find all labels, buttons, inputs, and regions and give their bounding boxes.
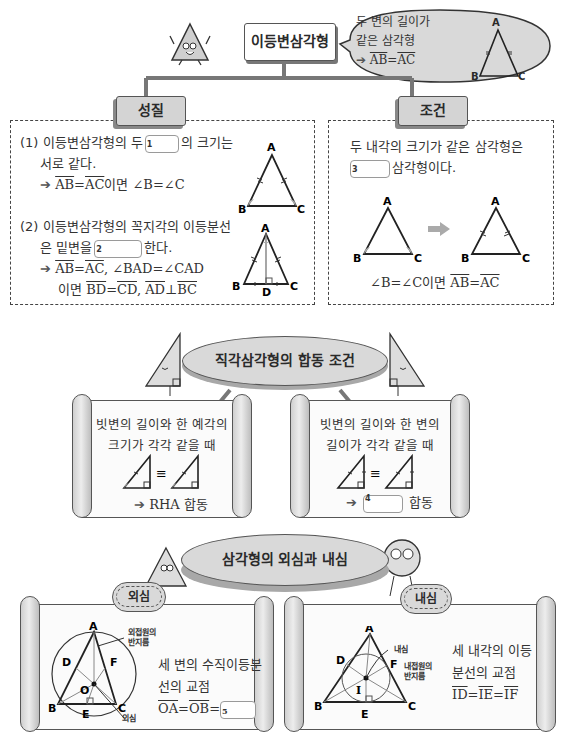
scroll-roll-left	[72, 394, 92, 518]
svg-text:A: A	[491, 196, 500, 208]
arrow-icon: ➔	[134, 497, 145, 512]
answer-blank-3[interactable]: 3	[350, 160, 390, 178]
svg-text:C: C	[290, 280, 298, 293]
right-arrow-icon	[428, 222, 452, 236]
svg-text:A: A	[267, 141, 276, 154]
svg-text:B: B	[314, 700, 322, 713]
arrow-icon: ➔	[346, 495, 357, 510]
definition-line1: 두 변의 길이가	[356, 13, 430, 32]
svg-text:A: A	[365, 626, 374, 635]
svg-text:B: B	[461, 252, 469, 264]
condition-triangle-sides: A B C	[458, 196, 548, 264]
svg-text:F: F	[110, 656, 118, 669]
svg-text:B: B	[48, 702, 56, 715]
svg-text:C: C	[522, 252, 530, 264]
connector-lines	[0, 60, 564, 120]
svg-text:B: B	[353, 252, 361, 264]
circumcenter-text: 세 변의 수직이등분 선의 교점 OA=OB=5	[158, 654, 262, 720]
answer-blank-4[interactable]: 4	[363, 495, 403, 513]
scroll-roll-right	[232, 394, 252, 518]
isosceles-title: 이등변삼각형	[244, 23, 336, 61]
svg-text:≡: ≡	[156, 466, 167, 481]
condition-formula: ∠B=∠C이면 AB=AC	[370, 272, 500, 291]
arrow-icon: ➔	[40, 261, 51, 276]
svg-text:F: F	[390, 658, 398, 671]
scroll-roll-left	[284, 596, 304, 732]
svg-text:A: A	[89, 620, 98, 633]
svg-text:O: O	[80, 684, 89, 697]
rhs-triangles-figure: ≡	[336, 454, 426, 492]
svg-text:C: C	[408, 700, 416, 713]
incenter-text: 세 내각의 이등 분선의 교점 ID=IE=IF	[452, 640, 532, 706]
answer-blank-1[interactable]: 1	[145, 135, 179, 153]
isosceles-triangle-figure-1: A B C	[238, 140, 308, 220]
properties-tab: 성질	[116, 96, 186, 126]
svg-text:C: C	[297, 203, 305, 216]
svg-text:D: D	[336, 654, 345, 667]
incenter-tab: 내심	[400, 584, 452, 614]
scroll-roll-right	[536, 596, 556, 732]
svg-text:C: C	[414, 252, 422, 264]
inradius-annotation: 내접원의 반지름	[404, 662, 432, 682]
svg-text:A: A	[261, 224, 270, 235]
svg-text:D: D	[62, 656, 71, 669]
svg-text:E: E	[82, 708, 90, 721]
rhs-result: ➔ 4 합동	[346, 492, 433, 513]
answer-blank-2[interactable]: 2	[94, 240, 142, 258]
arrow-icon: ➔	[40, 177, 51, 192]
svg-text:B: B	[232, 280, 240, 293]
condition-triangle-angles: A B C	[350, 196, 440, 264]
answer-blank-5[interactable]: 5	[220, 701, 256, 719]
condition-text: 두 내각의 크기가 같은 삼각형은 3삼각형이다.	[350, 136, 550, 178]
circumcenter-annotation: 외심	[122, 712, 136, 723]
definition-line2: 같은 삼각형	[356, 32, 430, 51]
svg-text:I: I	[356, 684, 361, 697]
incenter-annotation: 내심	[394, 643, 408, 654]
svg-text:D: D	[262, 286, 271, 298]
vertex-label-a: A	[492, 17, 500, 28]
rha-triangles-figure: ≡	[122, 454, 212, 492]
congruence-title: 직각삼각형의 합동 조건	[182, 336, 388, 386]
scroll-roll-right	[450, 394, 470, 518]
circumcenter-tab: 외심	[112, 582, 166, 612]
centers-title: 삼각형의 외심과 내심	[181, 534, 389, 586]
isosceles-triangle-figure-2: A B C D	[232, 224, 306, 298]
rhs-description: 빗변의 길이와 한 변의 길이가 각각 같을 때	[310, 414, 450, 456]
svg-text:B: B	[238, 203, 246, 216]
scroll-roll-left	[20, 596, 40, 732]
svg-text:A: A	[383, 196, 392, 208]
circumradius-annotation: 외접원의 반지름	[128, 628, 156, 648]
rha-description: 빗변의 길이와 한 예각의 크기가 각각 같을 때	[92, 414, 232, 456]
property-2: (2) 이등변삼각형의 꼭지각의 이등분선 은 밑변을2한다. ➔ AB=AC,…	[20, 216, 245, 300]
condition-tab: 조건	[398, 96, 468, 126]
scroll-roll-left	[290, 394, 310, 518]
property-1: (1) 이등변삼각형의 두1의 크기는 서로 같다. ➔ AB=AC이면 ∠B=…	[20, 132, 235, 195]
rha-result: ➔ RHA 합동	[134, 494, 208, 513]
svg-text:E: E	[361, 708, 369, 721]
svg-text:≡: ≡	[370, 466, 381, 481]
